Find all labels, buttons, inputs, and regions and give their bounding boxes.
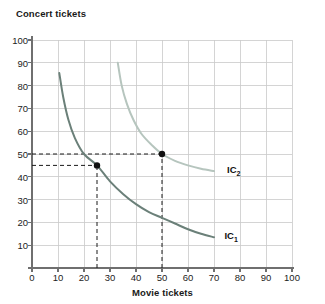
curve-label-subscript-1: 1 bbox=[234, 236, 238, 243]
x-tick-10: 10 bbox=[53, 272, 64, 283]
curve-label-subscript-2: 2 bbox=[237, 170, 241, 177]
curve-label-text-1: IC bbox=[224, 230, 234, 241]
curve-label-2: IC2 bbox=[227, 164, 240, 177]
x-tick-20: 20 bbox=[79, 272, 90, 283]
curve-label-text-2: IC bbox=[227, 164, 237, 175]
x-tick-50: 50 bbox=[157, 272, 168, 283]
x-axis-tick-labels: 0102030405060708090100 bbox=[0, 0, 325, 304]
curve-label-1: IC1 bbox=[224, 230, 237, 243]
indifference-curve-chart: Concert tickets 102030405060708090100 01… bbox=[0, 0, 325, 304]
x-tick-0: 0 bbox=[29, 272, 34, 283]
x-tick-80: 80 bbox=[235, 272, 246, 283]
x-axis-title: Movie tickets bbox=[0, 287, 325, 298]
x-tick-40: 40 bbox=[131, 272, 142, 283]
x-tick-70: 70 bbox=[209, 272, 220, 283]
x-tick-60: 60 bbox=[183, 272, 194, 283]
x-tick-30: 30 bbox=[105, 272, 116, 283]
x-tick-100: 100 bbox=[284, 272, 300, 283]
x-tick-90: 90 bbox=[261, 272, 272, 283]
